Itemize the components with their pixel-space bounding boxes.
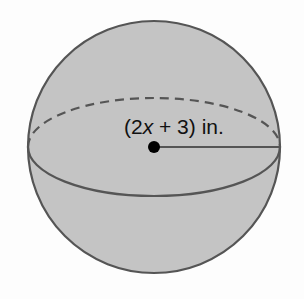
center-point [148, 141, 160, 153]
sphere-diagram: (2x + 3) in. [0, 0, 304, 299]
radius-label: (2x + 3) in. [124, 115, 224, 138]
